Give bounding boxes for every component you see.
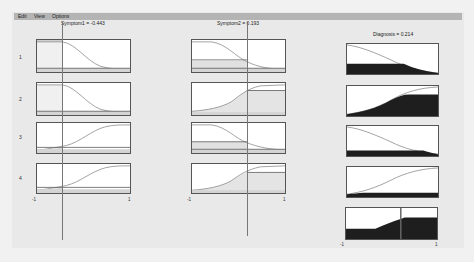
rule-label-1: 1 bbox=[19, 54, 22, 60]
rule-label-4: 4 bbox=[19, 175, 22, 181]
output-rule4-plot[interactable] bbox=[346, 166, 439, 198]
input1-rule4-plot[interactable] bbox=[36, 163, 131, 194]
output-rule1-plot[interactable] bbox=[346, 43, 439, 75]
input1-rule1-plot[interactable] bbox=[36, 39, 131, 73]
output-axis-max: 1 bbox=[435, 242, 438, 248]
input1-axis-min: -1 bbox=[32, 197, 36, 203]
output-rule3-plot[interactable] bbox=[346, 125, 439, 157]
menu-edit[interactable]: Edit bbox=[18, 13, 27, 20]
input2-title: Symptom2 = 0.193 bbox=[217, 20, 259, 26]
input2-rule2-plot[interactable] bbox=[191, 82, 286, 116]
input2-value-line[interactable] bbox=[247, 22, 248, 236]
rule-label-3: 3 bbox=[19, 134, 22, 140]
input2-axis-max: 1 bbox=[283, 197, 286, 203]
input2-rule3-plot[interactable] bbox=[191, 122, 286, 154]
input1-title: Symptom1 = -0.443 bbox=[61, 20, 105, 26]
menu-bar: Edit View Options bbox=[14, 13, 462, 20]
menu-view[interactable]: View bbox=[34, 13, 45, 20]
input1-value-line[interactable] bbox=[62, 22, 63, 240]
output-aggregate-plot[interactable] bbox=[345, 207, 438, 240]
input2-rule1-plot[interactable] bbox=[191, 39, 286, 73]
output-rule2-plot[interactable] bbox=[346, 85, 439, 117]
menu-options[interactable]: Options bbox=[52, 13, 69, 20]
input2-rule4-plot[interactable] bbox=[191, 163, 286, 194]
input1-axis-max: 1 bbox=[128, 197, 131, 203]
input1-rule3-plot[interactable] bbox=[36, 122, 131, 154]
input2-axis-min: -1 bbox=[187, 197, 191, 203]
output-title: Diagnosis = 0.214 bbox=[373, 31, 413, 37]
output-axis-min: -1 bbox=[340, 242, 344, 248]
input1-rule2-plot[interactable] bbox=[36, 82, 131, 116]
rule-label-2: 2 bbox=[19, 96, 22, 102]
